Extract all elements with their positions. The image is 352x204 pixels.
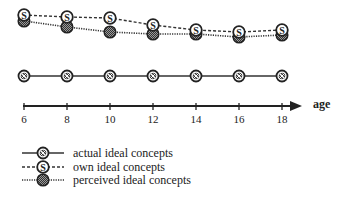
legend-label: own ideal concepts xyxy=(73,160,165,174)
series-actual-ideal xyxy=(19,71,288,82)
legend-label: perceived ideal concepts xyxy=(73,173,191,187)
x-tick: 6 xyxy=(21,113,27,125)
legend-item-own: own ideal concepts xyxy=(22,160,165,174)
legend-item-actual: actual ideal concepts xyxy=(22,146,173,160)
x-axis: 6 8 10 12 14 16 18 age xyxy=(21,97,331,125)
legend: actual ideal concepts own ideal concepts… xyxy=(22,146,191,187)
chart: S 6 8 10 12 14 16 18 age xyxy=(0,0,352,204)
x-tick: 12 xyxy=(148,113,159,125)
x-tick: 18 xyxy=(277,113,289,125)
x-tick: 14 xyxy=(191,113,203,125)
x-tick: 10 xyxy=(105,113,117,125)
legend-item-perceived: perceived ideal concepts xyxy=(22,173,191,187)
legend-label: actual ideal concepts xyxy=(73,146,173,160)
x-tick: 16 xyxy=(234,113,246,125)
x-tick: 8 xyxy=(64,113,70,125)
x-axis-label: age xyxy=(313,97,331,111)
